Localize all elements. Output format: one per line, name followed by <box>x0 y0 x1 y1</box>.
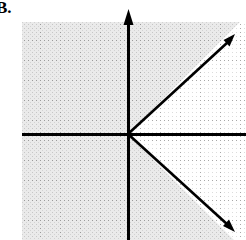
y-axis-arrowhead <box>124 9 134 25</box>
problem-label: B. <box>0 0 12 17</box>
coordinate-plane <box>0 0 246 240</box>
graph-figure: B. <box>0 0 246 240</box>
